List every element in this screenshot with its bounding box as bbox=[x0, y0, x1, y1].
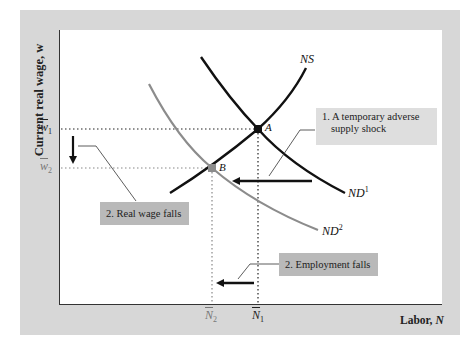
point-a-label: A bbox=[265, 121, 272, 133]
y-tick-w1: w1 bbox=[40, 120, 52, 136]
x-axis-label-text: Labor, bbox=[400, 314, 435, 326]
real-wage-falls-callout: 2. Real wage falls bbox=[100, 202, 189, 225]
y-tick-w1-sub: 1 bbox=[48, 127, 52, 136]
supply-shock-line2: supply shock bbox=[322, 123, 431, 135]
point-a-marker bbox=[254, 125, 262, 133]
nd1-label-sup: 1 bbox=[365, 185, 369, 194]
x-tick-n2-base: N bbox=[205, 308, 213, 322]
supply-shock-callout: 1. A temporary adverse supply shock bbox=[316, 108, 437, 145]
nd2-label-sup: 2 bbox=[339, 223, 343, 232]
ns-curve bbox=[170, 68, 306, 193]
y-tick-w1-base: w bbox=[40, 120, 48, 134]
labor-market-diagram bbox=[0, 0, 470, 350]
x-tick-n2: N2 bbox=[205, 308, 217, 324]
x-tick-n1: N1 bbox=[252, 308, 264, 324]
x-tick-n2-sub: 2 bbox=[213, 315, 217, 324]
nd2-label: ND2 bbox=[322, 223, 343, 239]
y-tick-w2-base: w bbox=[40, 159, 48, 173]
supply-shock-line1: 1. A temporary adverse bbox=[322, 111, 431, 123]
nd1-label: ND1 bbox=[348, 185, 369, 201]
point-b-label: B bbox=[219, 161, 226, 173]
x-tick-n1-base: N bbox=[252, 308, 260, 322]
y-tick-w2-sub: 2 bbox=[48, 166, 52, 175]
shock-leader-line bbox=[269, 130, 315, 176]
point-b-marker bbox=[208, 164, 216, 172]
ns-label-text: NS bbox=[300, 52, 314, 66]
x-tick-n1-sub: 1 bbox=[260, 315, 264, 324]
y-tick-w2: w2 bbox=[40, 159, 52, 175]
nd2-label-text: ND bbox=[322, 224, 339, 238]
nd1-label-text: ND bbox=[348, 186, 365, 200]
x-axis-label: Labor, N bbox=[400, 314, 444, 326]
ns-label: NS bbox=[300, 52, 314, 67]
employment-falls-callout: 2. Employment falls bbox=[279, 253, 378, 276]
x-axis-label-var: N bbox=[435, 314, 443, 326]
wage-leader-line bbox=[78, 146, 136, 201]
y-axis-label: Current real wage, w bbox=[32, 44, 47, 157]
